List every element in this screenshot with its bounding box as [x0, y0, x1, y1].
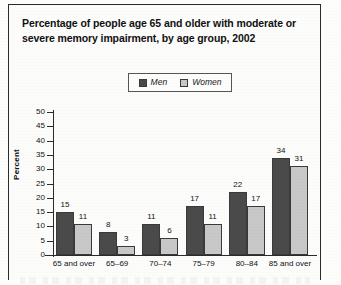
bar-women [247, 206, 265, 255]
legend-label-men: Men [151, 78, 168, 87]
y-axis-tick-label: 5 [3, 237, 45, 245]
y-axis-tick-label: 10 [3, 222, 45, 230]
bar-value-label: 3 [115, 235, 137, 243]
bar-women [74, 224, 92, 255]
legend-swatch-women [180, 79, 188, 87]
y-axis-tick [47, 255, 53, 256]
bar-value-label: 22 [227, 181, 249, 189]
bar-value-label: 11 [140, 213, 162, 221]
bar-value-label: 17 [184, 195, 206, 203]
y-axis-tick-label: 25 [3, 180, 45, 188]
y-axis-tick-label: 30 [3, 165, 45, 173]
bar-women [204, 224, 222, 255]
y-axis-tick-label: 35 [3, 151, 45, 159]
plot-area: 151183116171122173431 [53, 112, 315, 255]
chart-title-line-1: Percentage of people age 65 and older wi… [22, 16, 312, 31]
bar-women [290, 166, 308, 255]
bar-value-label: 8 [97, 221, 119, 229]
bar-value-label: 11 [72, 213, 94, 221]
legend-label-women: Women [192, 78, 221, 87]
bar-women [117, 246, 135, 255]
y-axis-title: Percent [12, 135, 21, 195]
chart-legend: Men Women [128, 73, 232, 92]
y-axis-tick-label: 50 [3, 108, 45, 116]
y-axis-tick-label: 40 [3, 137, 45, 145]
bar-value-label: 15 [54, 201, 76, 209]
bar-men [272, 158, 290, 255]
legend-swatch-men [139, 79, 147, 87]
bar-value-label: 6 [158, 227, 180, 235]
y-axis-tick-label: 0 [3, 251, 45, 259]
bar-women [160, 238, 178, 255]
x-axis-line [45, 255, 317, 256]
bar-value-label: 34 [270, 147, 292, 155]
y-axis-tick-label: 45 [3, 122, 45, 130]
scan-artifact-strip [20, 277, 310, 284]
chart-title: Percentage of people age 65 and older wi… [22, 16, 312, 46]
y-axis-tick-label: 20 [3, 194, 45, 202]
bar-value-label: 31 [288, 155, 310, 163]
chart-title-line-2: severe memory impairment, by age group, … [22, 31, 312, 46]
y-axis-labels: 50454035302520151050 [0, 0, 45, 285]
bar-value-label: 11 [202, 213, 224, 221]
y-axis-tick-label: 15 [3, 208, 45, 216]
chart-page: Percentage of people age 65 and older wi… [0, 0, 341, 285]
legend-item-women: Women [180, 78, 221, 87]
x-axis-category-label: 85 and over [256, 260, 324, 268]
bar-value-label: 17 [245, 195, 267, 203]
legend-item-men: Men [139, 78, 168, 87]
